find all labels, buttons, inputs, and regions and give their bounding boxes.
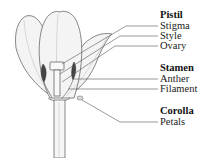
label-ovary: Ovary [160, 40, 186, 51]
label-stamen: Stamen [160, 62, 194, 73]
label-petals: Petals [160, 116, 185, 127]
leader-petals [82, 100, 158, 122]
label-pistil: Pistil [160, 9, 183, 20]
stigma [50, 62, 64, 70]
style [54, 70, 60, 96]
petal-center [39, 11, 82, 98]
nectary [77, 96, 83, 100]
label-corolla: Corolla [160, 105, 194, 116]
label-filament: Filament [160, 83, 197, 94]
stem [54, 100, 65, 158]
